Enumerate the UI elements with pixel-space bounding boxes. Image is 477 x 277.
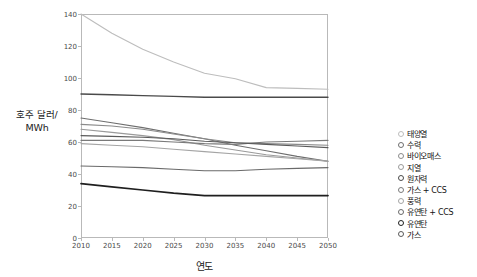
legend-marker-icon (398, 187, 404, 193)
legend-item[interactable]: 수력 (398, 139, 477, 150)
series-line (81, 166, 328, 171)
legend-item[interactable]: 원자력 (398, 173, 477, 184)
y-tickmark (78, 206, 81, 207)
series-line (81, 144, 328, 162)
legend-label: 가스 (407, 229, 420, 240)
x-axis-title: 연도 (81, 258, 328, 273)
series-line (81, 14, 328, 89)
legend-marker-icon (398, 142, 404, 148)
series-line (81, 118, 328, 161)
x-tickmark (297, 238, 298, 241)
legend-marker-icon (398, 131, 404, 137)
legend-item[interactable]: 지열 (398, 162, 477, 173)
legend-label: 지열 (407, 162, 420, 173)
legend-label: 유연탄 + CCS (407, 206, 453, 217)
legend-label: 풍력 (407, 195, 420, 206)
legend-item[interactable]: 풍력 (398, 195, 477, 206)
x-tickmark (112, 238, 113, 241)
legend-marker-icon (398, 198, 404, 204)
y-tickmark (78, 142, 81, 143)
legend-item[interactable]: 유연탄 + CCS (398, 206, 477, 217)
legend-marker-icon (398, 153, 404, 159)
x-axis-tick-2050: 2050 (308, 242, 348, 250)
legend-label: 가스 + CCS (407, 184, 447, 195)
legend-marker-icon (398, 220, 404, 226)
legend-item[interactable]: 바이오매스 (398, 150, 477, 161)
legend-marker-icon (398, 175, 404, 181)
legend-label: 유연탄 (407, 218, 427, 229)
x-tickmark (205, 238, 206, 241)
legend-item[interactable]: 유연탄 (398, 218, 477, 229)
x-tickmark (328, 238, 329, 241)
legend-item[interactable]: 가스 + CCS (398, 184, 477, 195)
legend-label: 바이오매스 (407, 150, 441, 161)
x-tickmark (143, 238, 144, 241)
line-chart: 호주 달러/ MWh 020406080100120140 2010201520… (0, 0, 477, 277)
legend-label: 원자력 (407, 173, 427, 184)
legend-label: 태양열 (407, 128, 427, 139)
y-tickmark (78, 46, 81, 47)
y-tickmark (78, 110, 81, 111)
legend-item[interactable]: 가스 (398, 229, 477, 240)
series-line (81, 94, 328, 97)
legend-marker-icon (398, 209, 404, 215)
x-tickmark (266, 238, 267, 241)
legend-marker-icon (398, 164, 404, 170)
legend-item[interactable]: 태양열 (398, 128, 477, 139)
legend-label: 수력 (407, 139, 420, 150)
y-tickmark (78, 174, 81, 175)
y-tickmark (78, 14, 81, 15)
y-tickmark (78, 78, 81, 79)
legend-marker-icon (398, 231, 404, 237)
x-tickmark (81, 238, 82, 241)
legend: 태양열수력바이오매스지열원자력가스 + CCS풍력유연탄 + CCS유연탄가스 (398, 128, 477, 240)
x-tickmark (174, 238, 175, 241)
series-line (81, 124, 328, 145)
series-line (81, 184, 328, 196)
x-tickmark (235, 238, 236, 241)
